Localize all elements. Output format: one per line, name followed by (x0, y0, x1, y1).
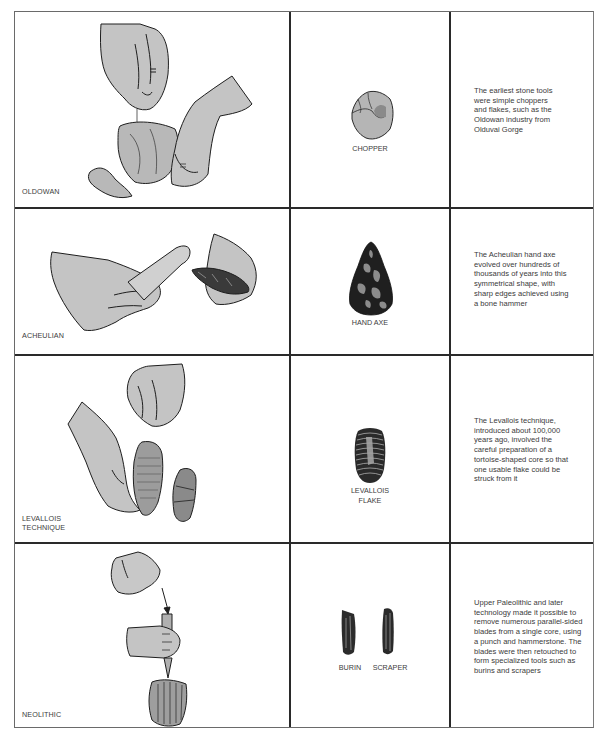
hand-axe-icon (346, 240, 396, 316)
tool-label: HAND AXE (330, 318, 410, 328)
technique-label: LEVALLOIS TECHNIQUE (22, 514, 65, 532)
column-divider-2 (449, 12, 451, 727)
hands-bone-hammer-icon (36, 220, 276, 340)
burin-icon (340, 608, 358, 656)
description: Upper Paleolithic and later technology m… (474, 598, 594, 676)
row-divider-3 (15, 542, 593, 544)
hands-punch-blade-core-icon (108, 548, 188, 728)
chopper-icon (346, 89, 396, 141)
hands-prepared-core-icon (62, 362, 212, 532)
technique-label: OLDOWAN (22, 187, 60, 196)
scraper-icon (380, 607, 396, 657)
row-divider-2 (15, 354, 593, 356)
description: The earliest stone tools were simple cho… (474, 86, 594, 135)
description: The Acheulian hand axe evolved over hund… (474, 250, 594, 308)
description: The Levallois technique, introduced abou… (474, 416, 594, 484)
row-divider-1 (15, 207, 593, 209)
technique-label: NEOLITHIC (22, 710, 61, 719)
tool-label: LEVALLOIS FLAKE (330, 486, 410, 505)
technique-label: ACHEULIAN (22, 331, 64, 340)
tool-label-scraper: SCRAPER (368, 663, 412, 673)
tool-label: CHOPPER (330, 144, 410, 154)
hands-striking-stone-icon (80, 14, 260, 204)
tool-label-burin: BURIN (330, 663, 370, 673)
levallois-flake-icon (350, 425, 392, 485)
column-divider-1 (289, 12, 291, 727)
